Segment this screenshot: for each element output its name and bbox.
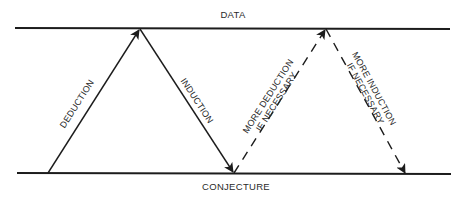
conjecture-line [17, 173, 451, 174]
more-induction-label-group: MORE INDUCTION IF NECESSARY [341, 50, 398, 132]
deduction-induction-diagram: DATA CONJECTURE DEDUCTION INDUCTION MORE… [0, 0, 462, 201]
deduction-label-group: DEDUCTION [58, 78, 96, 130]
induction-arrow [140, 29, 233, 172]
conjecture-label: CONJECTURE [202, 181, 270, 192]
deduction-arrow [48, 30, 139, 173]
data-line [15, 28, 450, 29]
more-deduction-label-group: MORE DEDUCTION IF NECESSARY [241, 57, 304, 140]
data-label: DATA [220, 9, 245, 20]
deduction-label: DEDUCTION [58, 78, 96, 130]
